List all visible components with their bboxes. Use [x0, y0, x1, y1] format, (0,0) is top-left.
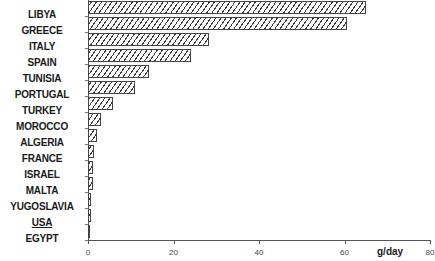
bar-malta	[88, 177, 93, 190]
x-tick-label: 60	[335, 248, 355, 257]
bar-portugal	[88, 81, 135, 94]
x-tick	[259, 240, 260, 244]
x-tick	[345, 240, 346, 244]
x-tick	[174, 240, 175, 244]
category-label: ALGERIA	[0, 137, 84, 149]
bar-egypt	[88, 225, 90, 238]
x-axis-label: g/day	[377, 246, 403, 257]
bar-algeria	[88, 129, 97, 142]
bar-spain	[88, 49, 191, 62]
x-tick-label: 40	[249, 248, 269, 257]
x-tick	[88, 240, 89, 244]
horizontal-bar-chart: LIBYAGREECEITALYSPAINTUNISIAPORTUGALTURK…	[0, 0, 435, 261]
category-label: MOROCCO	[0, 121, 84, 133]
x-tick-label: 80	[420, 248, 435, 257]
bar-morocco	[88, 113, 101, 126]
category-label: TUNISIA	[0, 73, 84, 85]
bar-tunisia	[88, 65, 149, 78]
category-label: GREECE	[0, 25, 84, 37]
bar-france	[88, 145, 94, 158]
bar-turkey	[88, 97, 113, 110]
category-label: FRANCE	[0, 153, 84, 165]
bar-libya	[88, 1, 366, 14]
category-label: ISRAEL	[0, 169, 84, 181]
category-label: SPAIN	[0, 57, 84, 69]
bar-italy	[88, 33, 209, 46]
category-label: PORTUGAL	[0, 89, 84, 101]
x-tick-label: 20	[164, 248, 184, 257]
x-tick	[430, 240, 431, 244]
category-label: YUGOSLAVIA	[0, 201, 84, 213]
category-label: EGYPT	[0, 233, 84, 245]
category-label: USA	[0, 217, 84, 229]
category-label: TURKEY	[0, 105, 84, 117]
category-label: ITALY	[0, 41, 84, 53]
bar-israel	[88, 161, 93, 174]
bar-usa	[88, 209, 91, 222]
x-tick-label: 0	[78, 248, 98, 257]
bar-yugoslavia	[88, 193, 91, 206]
category-label: MALTA	[0, 185, 84, 197]
category-label: LIBYA	[0, 9, 84, 21]
bar-greece	[88, 17, 347, 30]
